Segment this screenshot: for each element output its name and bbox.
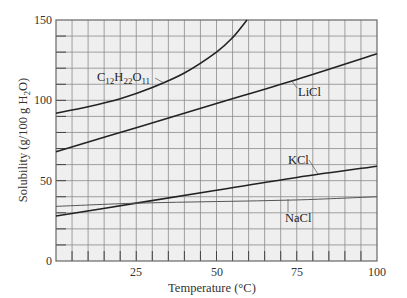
x-tick-labels: 25 50 75 100 [130,265,386,279]
kcl-label: KCl [288,153,309,167]
grid-lines [56,20,377,261]
x-axis-title: Temperature (°C) [168,281,256,295]
y-tick-0: 0 [46,254,52,268]
x-tick-75: 75 [291,265,303,279]
nacl-label: NaCl [285,211,312,225]
solubility-chart: 0 50 100 150 25 50 75 100 Temperature (°… [0,0,407,298]
licl-label: LiCl [298,85,321,99]
y-tick-100: 100 [34,93,52,107]
x-tick-25: 25 [130,265,142,279]
y-axis-title-end: O) [16,78,30,91]
y-tick-labels: 0 50 100 150 [34,13,52,268]
x-tick-50: 50 [211,265,223,279]
y-tick-50: 50 [40,174,52,188]
x-tick-100: 100 [368,265,386,279]
y-axis-title-main: Solubility (g/100 g H [16,96,30,203]
y-axis-title: Solubility (g/100 g H2O) [16,78,32,202]
y-tick-150: 150 [34,13,52,27]
